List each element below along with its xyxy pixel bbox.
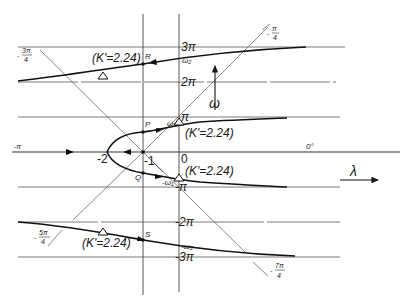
arrow-real-axis-mid <box>123 149 131 155</box>
gain-label-upper-right: (K'=2.24) <box>185 126 234 140</box>
point-R <box>141 62 145 66</box>
locus-bottom-branch <box>18 222 295 256</box>
omega-axis-label: ω <box>209 95 220 111</box>
tick-label-neg2: -2 <box>97 152 108 166</box>
tick-label-pi: π <box>181 110 190 124</box>
tick-label-neg1: -1 <box>144 154 155 168</box>
svg-text:4: 4 <box>273 34 277 41</box>
point-Q <box>141 171 145 175</box>
label-omega2-top: ω₂ <box>182 56 191 65</box>
label-omega1-top: ω₁ <box>167 119 176 128</box>
svg-text:3π: 3π <box>22 47 31 54</box>
tick-label-2pi: 2π <box>180 75 197 89</box>
left-axis-label: -π <box>14 143 21 150</box>
asymptote-tick-bl <box>48 230 62 246</box>
svg-text:5π: 5π <box>39 229 48 236</box>
label-R: R <box>145 52 151 61</box>
label-S: S <box>145 230 151 239</box>
fraction-bottom-right: - 7π 4 <box>270 262 285 279</box>
label-Q: Q <box>135 173 141 182</box>
fraction-bottom-left: - 5π 4 <box>34 229 50 245</box>
svg-text:-: - <box>17 52 20 59</box>
arrow-real-axis-left <box>66 149 74 155</box>
fraction-top-right: - π 4 <box>267 25 279 41</box>
tick-label-neg-2pi: -2π <box>175 215 195 229</box>
svg-text:4: 4 <box>277 272 281 279</box>
label-P: P <box>145 120 151 129</box>
svg-text:-: - <box>267 30 270 37</box>
label-omega1-bottom: -ω₁ <box>162 178 174 187</box>
tick-label-3pi: 3π <box>181 40 197 54</box>
svg-text:7π: 7π <box>275 262 284 269</box>
svg-text:4: 4 <box>41 238 45 245</box>
svg-text:4: 4 <box>24 56 28 63</box>
asymptote-tick-br <box>253 262 268 276</box>
gain-label-lower-left: (K'=2.24) <box>82 236 131 250</box>
angle-zero-label: 0° <box>306 142 314 151</box>
asymptote-bottom-left <box>73 152 143 220</box>
label-omega2-bottom: -ω₂ <box>181 242 193 251</box>
locus-arrows <box>66 59 164 241</box>
svg-text:-: - <box>34 234 37 241</box>
gain-label-lower-right: (K'=2.24) <box>185 164 234 178</box>
triangle-upper-left <box>98 72 108 79</box>
tick-label-neg-pi: -π <box>175 180 188 194</box>
lambda-axis-label: λ <box>349 163 357 179</box>
triangle-lower-left <box>98 228 108 235</box>
fraction-top-left: - 3π 4 <box>17 47 32 63</box>
tick-label-neg-3pi: -3π <box>175 250 195 264</box>
point-P <box>141 130 145 134</box>
svg-text:π: π <box>272 25 277 32</box>
gain-label-upper-left: (K'=2.24) <box>92 51 141 65</box>
locus-top-branch <box>18 47 306 81</box>
svg-text:-: - <box>270 267 273 274</box>
root-locus-diagram: -2 -1 0 3π 2π π -π -2π -3π ω₂ ω₁ -ω₁ -ω₂… <box>0 0 407 303</box>
